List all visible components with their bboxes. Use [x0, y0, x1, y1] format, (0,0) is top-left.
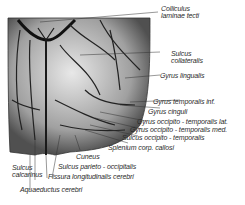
label-text: calcarinus [12, 171, 43, 178]
label-text: Colliculus [161, 5, 199, 12]
label-splenium: Splenium corp. callosi [108, 144, 174, 151]
label-colliculus: Colliculus laminae tecti [161, 5, 199, 19]
label-aquaeductus: Aquaeductus cerebri [20, 186, 82, 193]
label-text: Sulcus [12, 164, 43, 171]
label-gyrus-cinguli: Gyrus cinguli [148, 108, 187, 115]
label-sulcus-calcarinus: Sulcus calcarinus [12, 164, 43, 178]
label-sulcus-ot: Sulcus occipito - temporalis [122, 134, 204, 141]
label-cuneus: Cuneus [76, 153, 100, 160]
label-text: laminae tecti [161, 12, 199, 19]
label-sulcus-collateralis: Sulcus collateralis [171, 50, 203, 64]
label-sulcus-po: Sulcus parieto - occipitalis [58, 163, 136, 170]
label-text: Sulcus [171, 50, 203, 57]
label-gyrus-lingualis: Gyrus lingualis [160, 72, 204, 79]
brain-diagram: Colliculus laminae tecti Sulcus collater… [0, 0, 245, 205]
label-gyrus-ot-med: Gyrus occipito - temporalis med. [130, 126, 227, 133]
label-gyrus-temporalis-inf: Gyrus temporalis inf. [153, 98, 215, 105]
label-text: collateralis [171, 57, 203, 64]
label-gyrus-ot-lat: Gyrus occipito - temporalis lat. [137, 118, 228, 125]
label-fissura: Fissura longitudinalis cerebri [48, 173, 134, 180]
